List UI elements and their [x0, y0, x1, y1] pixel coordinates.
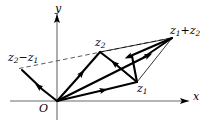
vector-z1-to-z2-seg2: [100, 52, 117, 65]
label-minus-operator: −: [19, 51, 28, 64]
label-z2-minus-z1-sub2: 1: [34, 56, 39, 65]
vector-O-to-z1-seg2: [100, 82, 137, 91]
label-origin: O: [39, 103, 48, 114]
label-z1-plus-z2-sub2: 2: [196, 29, 201, 38]
axes-group: [10, 14, 189, 120]
vector-O-to-z2minusz1-seg2: [22, 70, 41, 88]
label-y-axis: y: [55, 3, 61, 14]
label-z1: z1: [137, 83, 148, 96]
label-plus-operator: +: [181, 24, 190, 37]
label-z1-sub: 1: [143, 87, 148, 96]
label-z1-plus-z2: z1+z2: [170, 25, 200, 38]
label-z2-minus-z1: z2−z1: [8, 52, 38, 65]
vector-diagram-figure: z2−z1 z2 z1+z2 z1 O x y: [0, 0, 209, 126]
label-z2-sub: 2: [101, 41, 106, 50]
label-z2: z2: [95, 37, 106, 50]
label-x-axis: x: [193, 91, 199, 102]
